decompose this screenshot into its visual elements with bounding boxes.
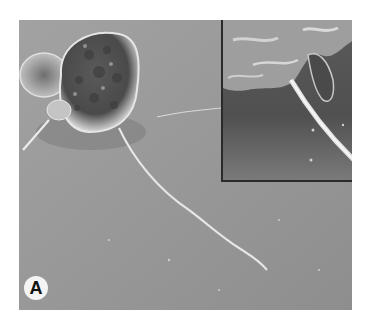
panel-label-badge: A	[24, 276, 48, 300]
inset-image	[223, 20, 352, 180]
magnified-inset	[221, 20, 352, 182]
micrograph-figure: A	[19, 20, 352, 310]
